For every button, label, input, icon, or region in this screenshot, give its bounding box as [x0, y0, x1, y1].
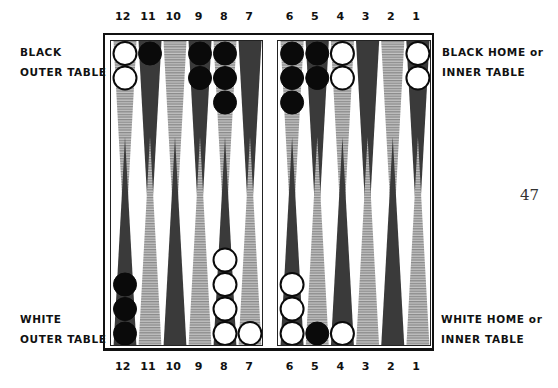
point-9-bottom [189, 137, 212, 346]
page-number: 47 [520, 186, 539, 204]
black-checker [306, 67, 329, 90]
label-line: WHITE HOME or [441, 309, 542, 329]
white-checker [114, 67, 137, 90]
point-number: 11 [135, 10, 160, 23]
label-line: BLACK HOME or [442, 42, 544, 62]
point-number: 8 [211, 360, 236, 373]
point-10-bottom [164, 137, 187, 346]
point-number: 9 [186, 10, 211, 23]
label-black-home-table: BLACK HOME or INNER TABLE [442, 42, 544, 82]
bottom-point-numbers-left: 12 11 10 9 8 7 [110, 360, 262, 373]
black-checker [281, 42, 304, 65]
point-7-bottom [239, 137, 262, 346]
black-checker [281, 91, 304, 114]
point-11-bottom [139, 137, 162, 346]
point-number: 11 [135, 360, 160, 373]
black-checker [214, 67, 237, 90]
white-checker [281, 298, 304, 321]
white-checker [114, 42, 137, 65]
point-4-bottom [331, 137, 354, 346]
white-checker [331, 42, 354, 65]
board-right-half-home-tables [277, 40, 431, 346]
bottom-point-numbers-right: 6 5 4 3 2 1 [277, 360, 429, 373]
label-line: INNER TABLE [442, 62, 544, 82]
white-checker [239, 322, 262, 345]
white-checker [214, 298, 237, 321]
point-number: 5 [302, 10, 327, 23]
point-number: 12 [110, 360, 135, 373]
point-number: 12 [110, 10, 135, 23]
label-white-home-table: WHITE HOME or INNER TABLE [441, 309, 542, 349]
black-checker [281, 67, 304, 90]
point-1-bottom [406, 137, 429, 346]
point-number: 7 [236, 10, 261, 23]
top-point-numbers-right: 6 5 4 3 2 1 [277, 10, 429, 23]
point-number: 6 [277, 360, 302, 373]
white-checker [331, 67, 354, 90]
point-number: 3 [353, 10, 378, 23]
black-checker [189, 42, 212, 65]
black-checker [114, 322, 137, 345]
point-number: 1 [403, 360, 428, 373]
white-checker [214, 322, 237, 345]
white-checker [281, 273, 304, 296]
black-checker [114, 298, 137, 321]
points-left [111, 41, 263, 346]
board-left-half-outer-tables [110, 40, 263, 346]
white-checker [214, 273, 237, 296]
label-black-outer-table: BLACK OUTER TABLE [20, 42, 106, 82]
white-checker [331, 322, 354, 345]
black-checker [214, 42, 237, 65]
black-checker [189, 67, 212, 90]
cropped-body-text [60, 382, 520, 388]
point-number: 4 [328, 360, 353, 373]
label-white-outer-table: WHITE OUTER TABLE [20, 309, 106, 349]
point-3-bottom [356, 137, 379, 346]
point-number: 1 [403, 10, 428, 23]
white-checker [281, 322, 304, 345]
point-number: 2 [378, 360, 403, 373]
label-line: BLACK [20, 42, 106, 62]
label-line: OUTER TABLE [20, 62, 106, 82]
point-2-bottom [381, 137, 404, 346]
point-5-bottom [306, 137, 329, 346]
white-checker [406, 42, 429, 65]
point-number: 6 [277, 10, 302, 23]
points-right [278, 41, 431, 346]
point-number: 4 [328, 10, 353, 23]
label-line: INNER TABLE [441, 329, 542, 349]
point-number: 5 [302, 360, 327, 373]
black-checker [139, 42, 162, 65]
point-number: 10 [161, 360, 186, 373]
point-number: 2 [378, 10, 403, 23]
white-checker [214, 249, 237, 272]
label-line: OUTER TABLE [20, 329, 106, 349]
point-number: 7 [236, 360, 261, 373]
point-number: 8 [211, 10, 236, 23]
point-number: 9 [186, 360, 211, 373]
black-checker [114, 273, 137, 296]
top-point-numbers-left: 12 11 10 9 8 7 [110, 10, 262, 23]
label-line: WHITE [20, 309, 106, 329]
black-checker [306, 322, 329, 345]
white-checker [406, 67, 429, 90]
point-number: 10 [161, 10, 186, 23]
black-checker [214, 91, 237, 114]
black-checker [306, 42, 329, 65]
point-number: 3 [353, 360, 378, 373]
